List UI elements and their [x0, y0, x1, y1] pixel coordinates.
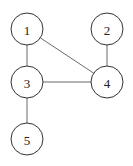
node-label: 5	[24, 133, 31, 148]
node-4: 4	[91, 66, 123, 98]
node-1: 1	[11, 13, 43, 45]
node-2: 2	[91, 13, 123, 45]
nodes-group: 12345	[11, 13, 123, 155]
node-5: 5	[11, 123, 43, 155]
node-3: 3	[11, 66, 43, 98]
node-label: 2	[104, 23, 111, 38]
graph-diagram: 12345	[0, 0, 133, 166]
node-label: 4	[104, 76, 111, 91]
node-label: 1	[24, 23, 31, 38]
node-label: 3	[24, 76, 31, 91]
